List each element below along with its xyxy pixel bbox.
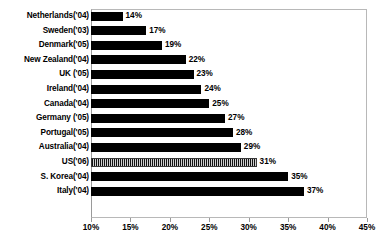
category-label: Portugal('05): [41, 126, 89, 141]
x-tick-label: 10%: [83, 223, 99, 232]
bar-value-label: 23%: [194, 67, 213, 82]
bar: [91, 114, 225, 123]
bar-value-label: 22%: [186, 53, 205, 68]
bar: [91, 70, 194, 79]
bar-track: 17%: [91, 24, 367, 39]
x-tick-label: 45%: [359, 223, 375, 232]
bar: [91, 99, 209, 108]
category-label: New Zealand('04): [24, 53, 89, 68]
x-tick-mark: [288, 218, 289, 222]
bar: [91, 172, 288, 181]
bar-row: Netherlands('04)14%: [0, 9, 387, 24]
bar-value-label: 28%: [233, 126, 252, 141]
x-tick-label: 30%: [241, 223, 257, 232]
x-tick-label: 25%: [201, 223, 217, 232]
category-label: Sweden('03): [43, 24, 89, 39]
category-label: Germany ('05): [36, 111, 89, 126]
category-label: UK ('05): [59, 67, 89, 82]
bar-row: UK ('05)23%: [0, 67, 387, 82]
category-label: Ireland('04): [47, 82, 89, 97]
x-tick-label: 40%: [319, 223, 335, 232]
category-label: Italy('04): [57, 184, 89, 199]
x-tick-mark: [170, 218, 171, 222]
bar-track: 35%: [91, 170, 367, 185]
bar-track: 23%: [91, 67, 367, 82]
bar-value-label: 14%: [123, 9, 142, 24]
bar: [91, 85, 201, 94]
x-tick-mark: [328, 218, 329, 222]
bar-value-label: 19%: [162, 38, 181, 53]
bar-value-label: 29%: [241, 140, 260, 155]
x-tick-mark: [91, 218, 92, 222]
bar-row: Ireland('04)24%: [0, 82, 387, 97]
bar-track: 22%: [91, 53, 367, 68]
bar-track: 19%: [91, 38, 367, 53]
bar-row: Denmark('05)19%: [0, 38, 387, 53]
bar-track: 37%: [91, 184, 367, 199]
bar: [91, 41, 162, 50]
bar-rows: Netherlands('04)14%Sweden('03)17%Denmark…: [0, 9, 387, 199]
bar-row: Sweden('03)17%: [0, 24, 387, 39]
category-label: Netherlands('04): [27, 9, 89, 24]
bar-row: S. Korea('04)35%: [0, 170, 387, 185]
bar-row: Portugal('05)28%: [0, 126, 387, 141]
x-axis: 10%15%20%25%30%35%40%45%: [91, 218, 367, 248]
bar: [91, 26, 146, 35]
x-tick-label: 15%: [122, 223, 138, 232]
bar-row: Germany ('05)27%: [0, 111, 387, 126]
x-tick-mark: [130, 218, 131, 222]
bar-track: 14%: [91, 9, 367, 24]
bar-value-label: 17%: [146, 24, 165, 39]
category-label: US('06): [62, 155, 89, 170]
bar: [91, 143, 241, 152]
bar: [91, 187, 304, 196]
bar-row: Australia('04)29%: [0, 140, 387, 155]
x-tick-label: 35%: [280, 223, 296, 232]
bar-value-label: 27%: [225, 111, 244, 126]
bar: [91, 158, 257, 167]
bar-track: 24%: [91, 82, 367, 97]
bar-track: 28%: [91, 126, 367, 141]
bar-value-label: 24%: [201, 82, 220, 97]
bar-track: 27%: [91, 111, 367, 126]
bar-chart: Netherlands('04)14%Sweden('03)17%Denmark…: [0, 0, 387, 249]
bar-track: 25%: [91, 97, 367, 112]
bar-row: New Zealand('04)22%: [0, 53, 387, 68]
x-tick-mark: [367, 218, 368, 222]
bar-value-label: 35%: [288, 170, 307, 185]
bar-value-label: 37%: [304, 184, 323, 199]
category-label: S. Korea('04): [41, 170, 89, 185]
bar-value-label: 31%: [257, 155, 276, 170]
x-tick-label: 20%: [162, 223, 178, 232]
bar: [91, 128, 233, 137]
bar-row: US('06)31%: [0, 155, 387, 170]
bar-value-label: 25%: [209, 97, 228, 112]
category-label: Australia('04): [39, 140, 89, 155]
bar: [91, 55, 186, 64]
x-tick-mark: [249, 218, 250, 222]
bar-track: 29%: [91, 140, 367, 155]
x-tick-mark: [209, 218, 210, 222]
category-label: Canada('04): [44, 97, 89, 112]
category-label: Denmark('05): [39, 38, 89, 53]
bar: [91, 12, 123, 21]
bar-row: Canada('04)25%: [0, 97, 387, 112]
bar-row: Italy('04)37%: [0, 184, 387, 199]
bar-track: 31%: [91, 155, 367, 170]
